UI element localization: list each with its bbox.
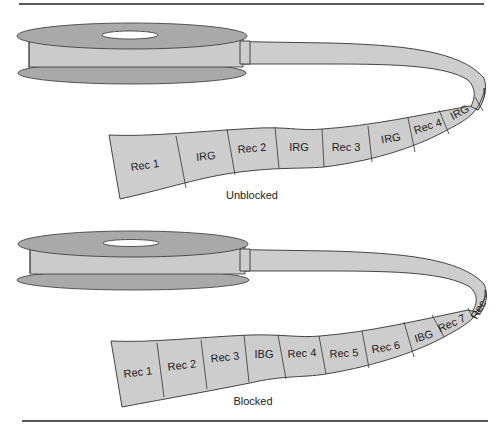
reel-hole <box>102 31 158 39</box>
segment-label: IBG <box>255 348 274 360</box>
segment-label: Rec 2 <box>237 141 267 155</box>
blocked-diagram: Rec 1 Rec 2 Rec 3 IBG Rec 4 Rec 5 Rec 6 … <box>17 231 488 407</box>
tape-diagram: Rec 1 IRG Rec 2 IRG Rec 3 IRG Rec 4 IRG … <box>0 0 501 434</box>
reel-hole <box>103 240 159 247</box>
segment-label: Rec 5 <box>329 346 358 359</box>
caption-unblocked: Unblocked <box>226 189 278 201</box>
segment-label: Rec 3 <box>332 141 361 153</box>
segment-label: IRG <box>289 141 309 153</box>
caption-blocked: Blocked <box>233 395 272 407</box>
unblocked-diagram: Rec 1 IRG Rec 2 IRG Rec 3 IRG Rec 4 IRG … <box>17 23 486 201</box>
segment-label: IRG <box>196 149 217 163</box>
segment-label: Rec 4 <box>287 346 316 359</box>
